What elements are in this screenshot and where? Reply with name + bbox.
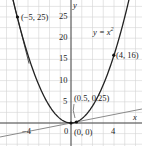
tick-x-m4: −4 [22,126,32,136]
label-point-05-025: (0.5, 0.25) [74,93,110,103]
point-4-16 [112,54,115,57]
curve-label: y = x2 [92,26,114,37]
tick-y-20: 20 [59,32,68,42]
tick-x-0: 0 [64,126,68,136]
tick-y-5: 5 [63,96,67,106]
arrow-to-secant-point [73,104,75,118]
x-axis-label: x [132,112,137,122]
label-point-4-16: (4, 16) [116,50,139,60]
point-05-025 [75,120,78,123]
point-0-0 [69,121,72,124]
tick-y-10: 10 [59,75,68,85]
y-axis-label: y [72,0,77,10]
tick-y-25: 25 [59,11,68,21]
parabola-chart: (−5, 25) (4, 16) (0.5, 0.25) (0, 0) y = … [0,0,142,146]
tick-x-4: 4 [111,126,116,136]
tick-y-15: 15 [59,53,68,63]
label-point-0-0: (0, 0) [74,127,93,137]
point-m5-25 [16,15,19,18]
label-point-m5-25: (−5, 25) [21,12,49,22]
